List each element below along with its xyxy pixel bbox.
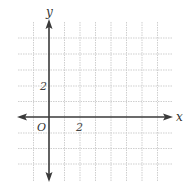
x-tick-label: 2 [75,121,83,134]
grid [18,22,172,182]
coordinate-plane: y x O 2 2 [0,0,188,190]
y-axis [46,19,53,182]
origin-label: O [37,121,46,134]
x-axis-label: x [176,110,183,124]
y-tick-label: 2 [39,80,47,93]
y-axis-label: y [45,5,53,19]
